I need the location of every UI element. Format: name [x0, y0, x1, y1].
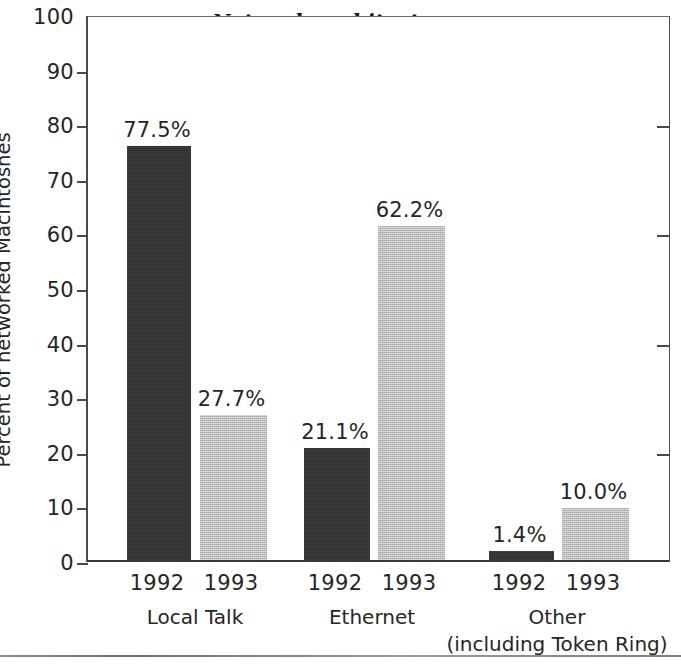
y-tick-label: 20 — [47, 443, 74, 464]
y-tick-label: 30 — [47, 389, 74, 410]
x-axis-year-label: 1992 — [130, 573, 185, 594]
y-tick-mark-right — [657, 345, 669, 347]
x-axis-group-sublabel: (including Token Ring) — [446, 631, 667, 658]
y-tick-label: 90 — [47, 61, 74, 82]
y-tick-mark-left — [77, 235, 88, 237]
x-axis-group-label: Local Talk — [147, 604, 244, 631]
y-tick-label: 40 — [47, 334, 74, 355]
x-axis-year-label: 1992 — [308, 573, 363, 594]
bar — [200, 415, 267, 560]
y-tick-mark-left — [77, 454, 88, 456]
y-axis-title: Percent of networked Macintoshes — [0, 100, 15, 500]
x-axis-year-label: 1993 — [204, 573, 259, 594]
y-tick-mark-left — [77, 290, 88, 292]
bar — [489, 551, 554, 560]
x-axis-group-label: Other(including Token Ring) — [446, 604, 667, 658]
bar-value-label: 62.2% — [376, 200, 444, 221]
y-tick-label: 80 — [47, 116, 74, 137]
y-tick-label: 0 — [60, 553, 74, 574]
x-axis-year-label: 1992 — [492, 573, 547, 594]
y-tick-label: 50 — [47, 280, 74, 301]
bar-value-label: 77.5% — [123, 120, 191, 141]
y-tick-label: 70 — [47, 170, 74, 191]
y-tick-mark-left — [77, 563, 88, 565]
bar — [562, 508, 629, 560]
bar — [304, 448, 370, 560]
bar-value-label: 27.7% — [198, 389, 266, 410]
bar-value-label: 1.4% — [492, 525, 546, 546]
y-tick-mark-left — [77, 345, 88, 347]
x-axis-group-name: Ethernet — [329, 605, 415, 629]
x-axis-group-label: Ethernet — [329, 604, 415, 631]
y-tick-mark-left — [77, 181, 88, 183]
y-tick-mark-right — [657, 126, 669, 128]
y-tick-label: 10 — [47, 498, 74, 519]
y-tick-mark-left — [77, 126, 88, 128]
bar-value-label: 21.1% — [301, 422, 369, 443]
bar — [378, 226, 445, 560]
x-axis-year-label: 1993 — [382, 573, 437, 594]
bottom-rule — [0, 655, 681, 657]
bar — [127, 146, 191, 560]
x-axis-year-label: 1993 — [566, 573, 621, 594]
y-tick-mark-left — [77, 508, 88, 510]
y-tick-mark-left — [77, 399, 88, 401]
x-axis-group-name: Other — [529, 605, 586, 629]
figure-container: Network architectures 010203040506070809… — [0, 0, 681, 667]
y-tick-label: 60 — [47, 225, 74, 246]
x-axis-group-name: Local Talk — [147, 605, 244, 629]
y-tick-mark-right — [657, 454, 669, 456]
y-tick-mark-right — [657, 235, 669, 237]
y-tick-mark-left — [77, 72, 88, 74]
bar-value-label: 10.0% — [560, 482, 628, 503]
y-tick-label: 100 — [33, 7, 74, 28]
